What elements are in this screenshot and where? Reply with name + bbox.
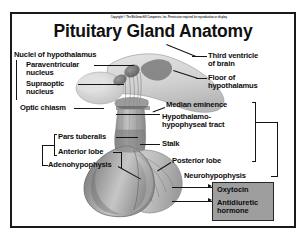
label-paraventricular-nucleus: Paraventricular nucleus xyxy=(26,61,79,78)
bracket-adeno-inner-vertical xyxy=(54,134,55,156)
bracket-adeno-inner-top xyxy=(54,134,57,135)
leader-pars-tuberalis xyxy=(116,137,138,138)
leader-floor-diag xyxy=(173,70,198,79)
arrowhead-adh xyxy=(208,198,212,202)
bracket-neuro-inner-top xyxy=(252,102,256,103)
label-optic-chiasm: Optic chiasm xyxy=(20,104,66,112)
leader-supraoptic xyxy=(78,84,124,85)
label-adenohypophysis: Adenohypophysis xyxy=(48,161,112,169)
hormone-callout-box[interactable]: Oxytocin Antidiuretic hormone xyxy=(212,182,274,221)
bracket-neuro-outer-vertical xyxy=(277,122,278,176)
bracket-neuro-outer-arm xyxy=(255,122,278,123)
bracket-neuro-inner-bottom xyxy=(252,161,256,162)
label-floor-of-hypothalamus: Floor of hypothalamus xyxy=(208,74,258,91)
label-hypothalamo-hypophyseal-tract: Hypothalamo- hypophyseal tract xyxy=(162,113,224,130)
label-supraoptic-nucleus: Supraoptic nucleus xyxy=(26,80,64,97)
leader-third-ventricle-diag xyxy=(166,44,196,57)
label-posterior-lobe: Posterior lobe xyxy=(172,157,221,165)
page-title: Pituitary Gland Anatomy xyxy=(12,21,294,42)
bracket-adeno-outer-arm xyxy=(42,145,54,146)
label-nuclei-of-hypothalamus: Nuclei of hypothalamus xyxy=(14,51,96,59)
bracket-neuro-outer-bottom xyxy=(271,176,278,177)
leader-stalk xyxy=(140,144,160,145)
leader-optic-chiasm xyxy=(74,108,104,109)
label-third-ventricle: Third ventricle of brain xyxy=(208,52,258,69)
leader-posterior-lobe xyxy=(157,162,171,171)
bracket-adeno-outer-vertical xyxy=(42,145,43,165)
label-pars-tuberalis: Pars tuberalis xyxy=(58,133,106,141)
leader-anterior-lobe-h xyxy=(113,152,121,153)
hormone-oxytocin: Oxytocin xyxy=(217,186,249,194)
figure-page: Copyright © The McGraw-Hill Companies, I… xyxy=(0,0,307,241)
bracket-nuclei-vertical xyxy=(16,60,17,100)
label-median-eminence: Median eminence xyxy=(166,101,227,109)
leader-anterior-lobe-v xyxy=(121,152,122,168)
figure-frame: Copyright © The McGraw-Hill Companies, I… xyxy=(10,12,296,228)
leader-hht xyxy=(116,114,160,115)
leader-adenohypophysis xyxy=(118,166,141,179)
hormone-antidiuretic: Antidiuretic hormone xyxy=(217,199,258,215)
label-stalk: Stalk xyxy=(162,140,179,148)
label-anterior-lobe: Anterior lobe xyxy=(58,148,103,156)
bracket-neuro-inner-vertical xyxy=(255,102,256,162)
label-neurohypophysis: Neurohypophysis xyxy=(184,172,246,180)
bracket-adeno-inner-bottom xyxy=(54,155,57,156)
arrow-oxytocin-line xyxy=(172,187,212,188)
arrow-adh-line xyxy=(172,201,212,202)
leader-paraventricular xyxy=(94,65,134,66)
arrowhead-oxytocin xyxy=(208,184,212,188)
